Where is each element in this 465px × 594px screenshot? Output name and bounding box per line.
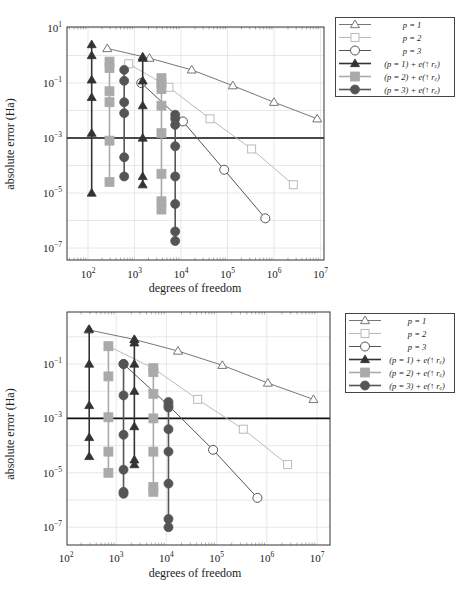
data-point: [103, 44, 112, 52]
legend-item: p = 2: [346, 327, 454, 340]
data-point: [85, 360, 94, 368]
legend-item: (p = 3) + e(↑ rₑ): [346, 379, 454, 392]
data-point: [220, 165, 229, 174]
data-point: [149, 368, 158, 377]
data-point: [248, 145, 256, 153]
legend-marker-icon: [346, 340, 384, 353]
y-tick-label: 10−3: [43, 130, 62, 144]
legend-item: p = 1: [336, 18, 454, 31]
data-point: [164, 515, 173, 524]
legend-label: (p = 3) + e(↑ rₑ): [374, 85, 454, 95]
legend-marker-icon: [336, 57, 374, 70]
data-point: [206, 115, 214, 123]
data-point: [119, 430, 128, 439]
data-point: [209, 445, 218, 454]
data-point: [105, 136, 114, 145]
legend-marker: [351, 85, 360, 94]
legend-marker: [361, 342, 370, 351]
data-point: [120, 65, 129, 74]
data-point: [149, 447, 158, 456]
legend-label: p = 2: [374, 33, 454, 43]
data-point: [171, 199, 180, 208]
x-tick-label: 102: [59, 550, 74, 564]
data-point: [87, 75, 96, 83]
data-point: [87, 93, 96, 101]
data-point: [105, 178, 114, 187]
legend-marker-icon: [336, 18, 374, 31]
legend-marker-icon: [346, 379, 384, 392]
data-point: [119, 391, 128, 400]
data-point: [120, 109, 129, 118]
legend-marker: [361, 330, 369, 338]
legend-marker-icon: [336, 70, 374, 83]
y-tick-label: 10−5: [43, 185, 62, 199]
y-tick-label: 10−1: [43, 75, 62, 89]
data-point: [87, 51, 96, 59]
data-point: [120, 153, 129, 162]
legend-marker-icon: [346, 366, 384, 379]
legend-marker: [351, 20, 360, 28]
legend-marker: [351, 72, 360, 81]
legend-label: (p = 1) + e(↑ rₑ): [384, 355, 454, 365]
data-point: [171, 120, 180, 129]
legend-marker-icon: [336, 83, 374, 96]
legend-marker-icon: [346, 327, 384, 340]
data-point: [171, 172, 180, 181]
x-tick-label: 106: [267, 266, 282, 280]
legend-label: p = 3: [384, 342, 454, 352]
y-tick-label: 10−7: [43, 519, 62, 533]
x-axis-label: degrees of freedom: [149, 566, 242, 580]
data-point: [104, 413, 113, 422]
data-point: [87, 40, 96, 48]
data-point: [85, 401, 94, 409]
data-point: [149, 487, 158, 496]
legend-marker: [361, 368, 370, 377]
data-point: [120, 98, 129, 107]
y-tick-label: 10−7: [43, 240, 62, 254]
x-tick-label: 105: [209, 550, 224, 564]
legend-label: (p = 2) + e(↑ rₑ): [374, 72, 454, 82]
data-point: [120, 172, 129, 181]
data-point: [171, 236, 180, 245]
data-point: [171, 142, 180, 151]
data-point: [87, 129, 96, 137]
legend-top: p = 1p = 2p = 3(p = 1) + e(↑ rₑ)(p = 2) …: [335, 17, 455, 97]
data-point: [149, 389, 158, 398]
legend-item: p = 1: [346, 314, 454, 327]
legend-marker-icon: [346, 353, 384, 366]
legend-label: p = 2: [384, 329, 454, 339]
legend-item: (p = 3) + e(↑ rₑ): [336, 83, 454, 96]
data-point: [130, 387, 139, 395]
x-tick-label: 107: [310, 550, 325, 564]
legend-label: p = 3: [374, 46, 454, 56]
x-axis-label: degrees of freedom: [149, 281, 242, 295]
data-point: [164, 479, 173, 488]
legend-bottom: p = 1p = 2p = 3(p = 1) + e(↑ rₑ)(p = 2) …: [345, 313, 455, 393]
series-1: [104, 342, 291, 468]
data-point: [104, 342, 113, 351]
y-tick-label: 10−5: [43, 465, 62, 479]
x-tick-label: 104: [174, 266, 189, 280]
x-tick-label: 103: [127, 266, 142, 280]
legend-item: (p = 1) + e(↑ rₑ): [346, 353, 454, 366]
legend-item: p = 3: [336, 44, 454, 57]
data-point: [138, 101, 147, 109]
data-point: [289, 181, 297, 189]
legend-label: p = 1: [374, 20, 454, 30]
data-point: [119, 465, 128, 474]
data-point: [119, 489, 128, 498]
legend-marker: [351, 46, 360, 55]
legend-marker: [351, 34, 359, 42]
data-point: [270, 98, 279, 106]
data-point: [104, 468, 113, 477]
data-point: [138, 172, 147, 180]
data-point: [164, 403, 173, 412]
series-3: [87, 40, 147, 196]
legend-label: (p = 2) + e(↑ rₑ): [384, 368, 454, 378]
series-5: [120, 65, 180, 245]
data-point: [105, 64, 114, 73]
series-4: [105, 57, 166, 214]
x-tick-label: 103: [109, 550, 124, 564]
y-tick-label: 10−3: [43, 410, 62, 424]
y-tick-label: 10−1: [43, 356, 62, 370]
